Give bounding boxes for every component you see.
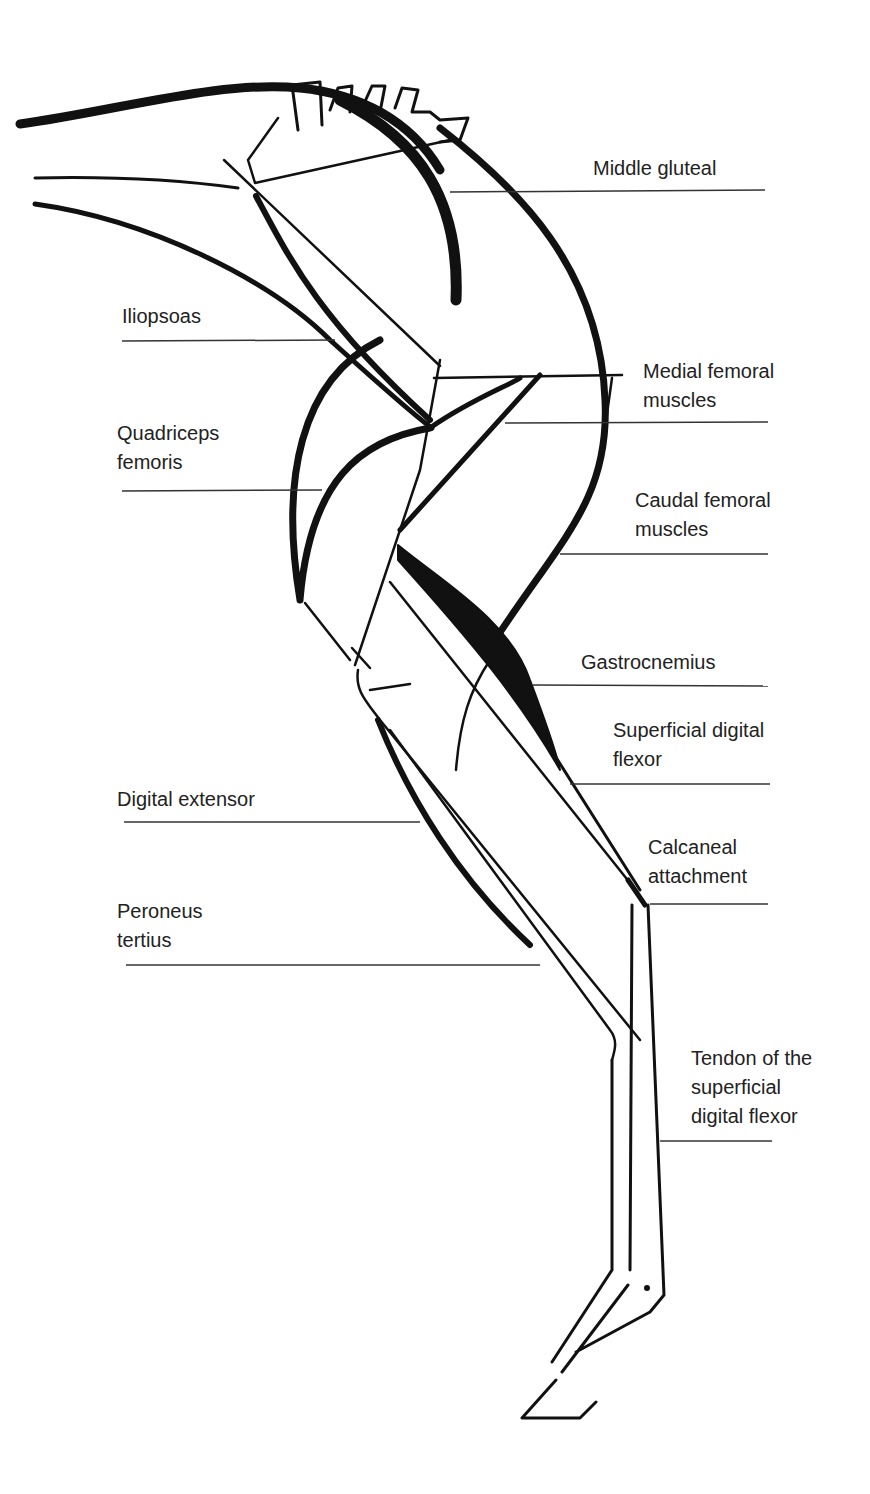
patella-line: [305, 603, 370, 668]
sesamoid-dot: [644, 1285, 650, 1291]
leader-medial-femoral: [505, 422, 768, 423]
label-medial-femoral-muscles: Medial femoral muscles: [643, 357, 774, 415]
label-gastrocnemius: Gastrocnemius: [581, 648, 716, 677]
iliopsoas-muscle: [256, 196, 430, 420]
iliopsoas-line: [224, 160, 440, 366]
pelvis: [248, 118, 450, 183]
flank-line-upper: [35, 177, 238, 188]
label-sdf-tendon: Tendon of the superficial digital flexor: [691, 1044, 812, 1131]
caudal-femoral-muscle: [440, 128, 605, 640]
flank-line-lower: [35, 204, 432, 428]
label-digital-extensor: Digital extensor: [117, 785, 255, 814]
label-middle-gluteal: Middle gluteal: [593, 154, 716, 183]
leader-iliopsoas: [122, 340, 335, 341]
label-quadriceps-femoris: Quadriceps femoris: [117, 419, 219, 477]
medial-femoral-muscle: [400, 375, 540, 530]
label-caudal-femoral-muscles: Caudal femoral muscles: [635, 486, 771, 544]
digital-extensor-muscle: [378, 720, 530, 945]
label-calcaneal-attachment: Calcaneal attachment: [648, 833, 747, 891]
label-peroneus-tertius: Peroneus tertius: [117, 897, 203, 955]
leader-quadriceps: [122, 490, 322, 491]
label-iliopsoas: Iliopsoas: [122, 302, 201, 331]
leader-middle-gluteal: [450, 190, 765, 192]
peroneus-tertius-line: [390, 730, 615, 1060]
leader-gastrocnemius: [533, 685, 768, 686]
label-superficial-digital-flexor: Superficial digital flexor: [613, 716, 764, 774]
